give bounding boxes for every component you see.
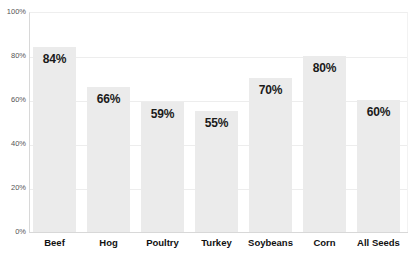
bar-slot-poultry: 59% [141, 102, 184, 232]
bar-value-soybeans: 70% [249, 83, 292, 97]
bar-slot-beef: 84% [33, 47, 76, 232]
bar-slot-turkey: 55% [195, 111, 238, 232]
bar-value-corn: 80% [303, 61, 346, 75]
x-axis-label-turkey: Turkey [193, 236, 240, 250]
chart-title [0, 0, 412, 1]
bar-turkey: 55% [195, 111, 238, 232]
x-axis-label-hog: Hog [87, 236, 130, 250]
bar-poultry: 59% [141, 102, 184, 232]
bar-soybeans: 70% [249, 78, 292, 232]
bar-slot-hog: 66% [87, 87, 130, 232]
x-axis-label-poultry: Poultry [139, 236, 186, 250]
y-axis-tick-20: 20% [0, 184, 26, 192]
bars-container: 84% 66% 59% 55% 70% 80% [29, 12, 408, 232]
bar-slot-soybeans: 70% [249, 78, 292, 232]
bar-chart: 100% 80% 60% 40% 20% 0% 84% 66% 59% 55% [0, 0, 412, 263]
bar-slot-corn: 80% [303, 56, 346, 232]
x-axis-line [29, 232, 408, 233]
bar-all-seeds: 60% [357, 100, 400, 232]
x-axis-label-all-seeds: All Seeds [352, 236, 405, 250]
bar-beef: 84% [33, 47, 76, 232]
bar-value-poultry: 59% [141, 107, 184, 121]
y-axis-tick-80: 80% [0, 52, 26, 60]
x-axis-label-beef: Beef [33, 236, 76, 250]
bar-hog: 66% [87, 87, 130, 232]
y-axis-tick-0: 0% [0, 228, 26, 236]
y-axis-tick-100: 100% [0, 8, 26, 16]
x-axis-label-soybeans: Soybeans [244, 236, 297, 250]
y-axis-tick-40: 40% [0, 140, 26, 148]
x-axis-label-corn: Corn [303, 236, 346, 250]
x-axis-labels: Beef Hog Poultry Turkey Soybeans Corn Al… [29, 236, 408, 256]
bar-corn: 80% [303, 56, 346, 232]
y-axis-tick-60: 60% [0, 96, 26, 104]
bar-value-all-seeds: 60% [357, 105, 400, 119]
bar-value-beef: 84% [33, 52, 76, 66]
bar-value-hog: 66% [87, 92, 130, 106]
bar-slot-all-seeds: 60% [357, 100, 400, 232]
bar-value-turkey: 55% [195, 116, 238, 130]
